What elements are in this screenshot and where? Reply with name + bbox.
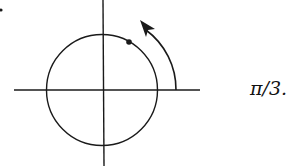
angle-point xyxy=(126,39,132,45)
rotation-arrowhead-icon xyxy=(140,20,155,37)
angle-label: π/3. xyxy=(250,77,287,99)
y-axis xyxy=(103,0,104,166)
margin-dot xyxy=(0,8,3,11)
rotation-arrow-arc xyxy=(146,30,176,90)
